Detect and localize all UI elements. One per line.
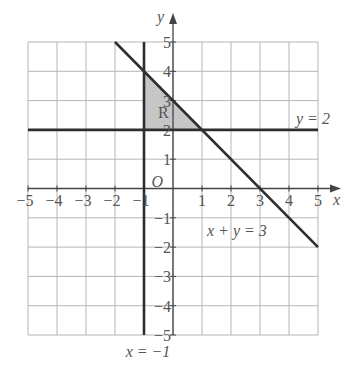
- line-xy3-label: x + y = 3: [206, 222, 267, 240]
- x-tick-label: −2: [103, 192, 120, 209]
- x-axis-label: x: [332, 191, 340, 208]
- coordinate-plane: −5−4−3−2−11234554321−1−2−3−4−5Oxyy = 2x …: [0, 0, 357, 387]
- x-tick-label: −1: [132, 192, 149, 209]
- x-tick-label: 2: [227, 192, 235, 209]
- y-tick-label: 5: [163, 34, 171, 51]
- line-xy3: [115, 42, 318, 247]
- y-tick-label: 1: [163, 151, 171, 168]
- y-tick-label: 4: [163, 63, 171, 80]
- y-tick-label: −1: [154, 210, 171, 227]
- y-tick-label: −5: [154, 327, 171, 344]
- coordinate-diagram: −5−4−3−2−11234554321−1−2−3−4−5Oxyy = 2x …: [0, 0, 357, 387]
- origin-label: O: [151, 173, 163, 190]
- region-label: R: [158, 104, 169, 121]
- x-tick-label: −4: [45, 192, 62, 209]
- x-tick-label: 1: [198, 192, 206, 209]
- y-axis-label: y: [155, 8, 165, 26]
- line-xm1-label: x = −1: [125, 343, 171, 360]
- y-axis-arrow-icon: [169, 13, 177, 24]
- x-tick-label: −3: [74, 192, 91, 209]
- x-tick-label: 4: [285, 192, 293, 209]
- y-tick-label: −2: [154, 239, 171, 256]
- y-tick-label: −4: [154, 298, 171, 315]
- line-y2-label: y = 2: [294, 110, 330, 128]
- x-tick-label: 3: [256, 192, 264, 209]
- y-tick-label: 2: [163, 122, 171, 139]
- labels: −5−4−3−2−11234554321−1−2−3−4−5Oxyy = 2x …: [16, 8, 340, 360]
- y-tick-label: −3: [154, 268, 171, 285]
- x-tick-label: 5: [314, 192, 322, 209]
- x-tick-label: −5: [16, 192, 33, 209]
- axes: [28, 13, 341, 335]
